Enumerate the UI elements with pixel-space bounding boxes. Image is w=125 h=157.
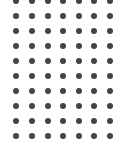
grid-dot [91,118,97,124]
grid-dot [91,58,97,64]
grid-dot [76,118,82,124]
grid-dot [107,0,113,4]
grid-dot [76,58,82,64]
grid-dot [76,88,82,94]
grid-dot [29,88,35,94]
grid-dot [107,118,113,124]
grid-dot [91,73,97,79]
grid-dot [91,43,97,49]
grid-dot [13,88,19,94]
grid-dot [29,118,35,124]
grid-dot [13,58,19,64]
grid-dot [60,88,66,94]
grid-dot [45,58,51,64]
grid-dot [29,103,35,109]
grid-dot [76,133,82,139]
grid-dot [107,28,113,34]
grid-dot [76,43,82,49]
grid-dot [45,118,51,124]
grid-dot [107,43,113,49]
grid-dot [29,0,35,4]
grid-dot [76,28,82,34]
grid-dot [76,73,82,79]
grid-dot [60,28,66,34]
grid-dot [45,43,51,49]
grid-dot [13,118,19,124]
grid-dot [45,73,51,79]
grid-dot [107,103,113,109]
grid-dot [60,43,66,49]
grid-dot [76,13,82,19]
grid-dot [91,88,97,94]
grid-dot [60,0,66,4]
grid-dot [45,133,51,139]
grid-dot [29,58,35,64]
grid-dot [29,13,35,19]
grid-dot [91,0,97,4]
grid-dot [107,133,113,139]
grid-dot [107,13,113,19]
grid-dot [13,0,19,4]
grid-dot [107,88,113,94]
grid-dot [91,28,97,34]
grid-dot [29,43,35,49]
grid-dot [107,73,113,79]
grid-dot [13,28,19,34]
grid-dot [60,118,66,124]
grid-dot [45,13,51,19]
grid-dot [76,103,82,109]
grid-dot [60,13,66,19]
grid-dot [13,43,19,49]
grid-dot [13,73,19,79]
grid-dot [13,103,19,109]
grid-dot [45,103,51,109]
grid-dot [45,0,51,4]
grid-dot [91,13,97,19]
grid-dot [60,103,66,109]
grid-dot [60,133,66,139]
grid-dot [60,58,66,64]
grid-dot [107,58,113,64]
grid-dot [13,133,19,139]
grid-dot [29,73,35,79]
grid-dot [60,73,66,79]
grid-dot [91,133,97,139]
grid-dot [45,28,51,34]
grid-dot [13,13,19,19]
grid-dot [29,133,35,139]
dot-grid-pattern [0,0,125,157]
grid-dot [91,103,97,109]
grid-dot [76,0,82,4]
grid-dot [45,88,51,94]
grid-dot [29,28,35,34]
